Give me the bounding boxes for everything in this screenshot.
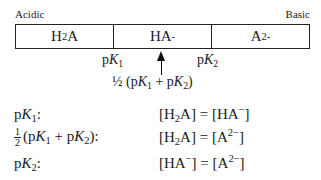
a-text: A [180,106,191,122]
equals: = [196,106,212,122]
species-text-rest: A [67,28,78,45]
mid-plus: + p [152,74,174,89]
p-text: p [14,155,22,171]
pk1-boundary-label: pK1 [102,52,123,68]
acidic-label: Acidic [15,8,44,20]
p-text: p [14,106,22,122]
charge: 2− [228,153,239,164]
k-text: K [22,155,32,171]
equals: = [197,155,213,171]
mid-prefix: ½ (p [112,74,138,89]
up-arrow-icon [161,51,163,73]
a-text: A [217,129,228,145]
region-a2: A2- [211,25,309,48]
arrow-shaft [161,59,162,75]
bracket: ] [239,129,244,145]
species-text: HA [150,28,172,45]
a-text: A [218,155,229,171]
k-text: K [138,74,147,89]
h-text: H [164,106,175,122]
k-text: K [74,128,84,144]
colon: : [37,155,41,171]
condition-pk2: pK2: [14,155,41,172]
p-text: p [102,52,109,67]
denominator: 2 [14,138,21,148]
equals: = [196,129,212,145]
bracket: ] [240,155,245,171]
pk2-boundary-label: pK2 [197,52,218,68]
k-text: K [36,128,46,144]
condition-midpoint: 12(pK1 + pK2): [14,127,99,148]
subscript: 1 [118,58,123,69]
subscript: 2 [213,58,218,69]
bracket: ] [245,106,250,122]
ha-text: HA [217,106,239,122]
colon: : [95,128,99,144]
k-text: K [204,52,213,67]
equation-pk2: [HA−] = [A2−] [159,155,245,172]
h-text: H [164,129,175,145]
region-ha: HA- [113,25,211,48]
equation-pk1: [H2A] = [HA−] [159,106,250,123]
midpoint-label: ½ (pK1 + pK2) [112,74,193,90]
plus: + [51,128,67,144]
a-text: A [180,129,191,145]
mid-suffix: ) [188,74,193,89]
p-text: p [28,128,36,144]
k-text: K [22,106,32,122]
basic-label: Basic [286,8,310,20]
species-text: A [251,28,262,45]
region-h2a: H2A [16,25,113,48]
equation-midpoint: [H2A] = [A2−] [159,129,244,146]
condition-pk1: pK1: [14,106,41,123]
k-text: K [174,74,183,89]
species-bar: H2A HA- A2- [15,24,310,49]
p-text: p [197,52,204,67]
half-fraction: 12 [14,127,21,148]
k-text: K [109,52,118,67]
charge: 2− [228,127,239,138]
species-text: H [51,28,62,45]
colon: : [37,106,41,122]
ha-text: HA [164,155,186,171]
